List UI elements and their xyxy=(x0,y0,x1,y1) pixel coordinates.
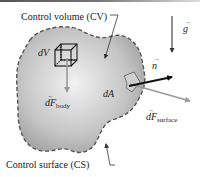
body-force-symbol: dF xyxy=(45,98,56,108)
normal-vector-label: n xyxy=(152,61,157,71)
dv-label: dV xyxy=(38,48,49,58)
surface-force-symbol: dF xyxy=(146,112,157,122)
gravity-label: g xyxy=(183,24,188,34)
da-symbol: dA xyxy=(103,88,114,99)
control-surface-label: Control surface (CS) xyxy=(6,160,89,170)
control-volume-diagram xyxy=(0,0,200,177)
dv-symbol: dV xyxy=(38,47,49,58)
control-surface-leader xyxy=(106,144,115,165)
normal-symbol: n xyxy=(152,61,157,71)
control-volume-label: Control volume (CV) xyxy=(21,12,107,22)
control-volume-region xyxy=(17,27,145,153)
surface-force-subscript: surface xyxy=(157,116,177,124)
body-force-label: dFbody xyxy=(45,98,70,110)
surface-force-label: dFsurface xyxy=(146,112,177,124)
body-force-subscript: body xyxy=(56,102,70,110)
gravity-symbol: g xyxy=(183,24,188,34)
da-label: dA xyxy=(103,89,114,99)
